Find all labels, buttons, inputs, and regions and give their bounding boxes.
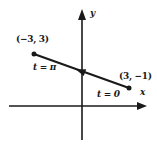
param-label-end: t = π xyxy=(33,63,56,72)
segment-direction-arrowhead-icon xyxy=(76,69,86,76)
y-axis-arrowhead-icon xyxy=(78,9,86,20)
segment-endpoint-dot-right xyxy=(127,86,132,91)
point-label-start: (3, −1) xyxy=(119,72,152,81)
param-label-start: t = 0 xyxy=(97,90,120,99)
x-axis-arrowhead-icon xyxy=(137,102,147,110)
point-label-end: (−3, 3) xyxy=(16,35,49,44)
x-axis-label: x xyxy=(140,88,145,97)
y-axis-label: y xyxy=(90,9,95,18)
parametric-segment-figure: (−3, 3) t = π (3, −1) t = 0 x y xyxy=(0,0,157,149)
segment-endpoint-dot-left xyxy=(32,52,37,57)
